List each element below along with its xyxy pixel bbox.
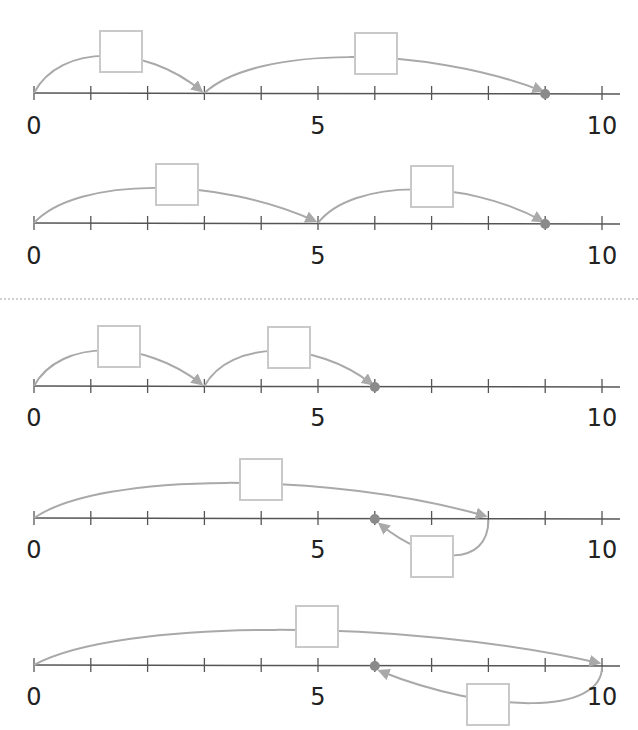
section-divider	[0, 298, 638, 300]
axis-line	[34, 665, 620, 666]
answer-box[interactable]	[295, 605, 339, 648]
tick-label-10: 10	[587, 536, 618, 564]
end-point-dot	[540, 219, 550, 229]
tick-label-10: 10	[587, 404, 618, 432]
axis-line	[34, 93, 620, 94]
tick-label-10: 10	[587, 242, 618, 270]
answer-box[interactable]	[267, 326, 311, 369]
answer-box[interactable]	[155, 163, 199, 206]
end-point-dot	[370, 382, 380, 392]
tick-label-5: 5	[310, 404, 325, 432]
tick-label-10: 10	[587, 683, 618, 711]
end-point-dot	[370, 514, 380, 524]
answer-box[interactable]	[97, 325, 141, 368]
tick-label-0: 0	[26, 404, 41, 432]
tick-label-0: 0	[26, 242, 41, 270]
tick-label-5: 5	[310, 242, 325, 270]
end-point-dot	[370, 661, 380, 671]
tick-label-0: 0	[26, 536, 41, 564]
tick-label-5: 5	[310, 112, 325, 140]
answer-box[interactable]	[99, 30, 143, 73]
axis-line	[34, 518, 620, 519]
number-line-4	[34, 483, 620, 556]
axis-line	[34, 386, 620, 387]
number-line-2	[34, 188, 620, 230]
tick-label-5: 5	[310, 536, 325, 564]
answer-box[interactable]	[354, 32, 398, 75]
tick-label-0: 0	[26, 112, 41, 140]
answer-box[interactable]	[410, 165, 454, 208]
tick-label-5: 5	[310, 683, 325, 711]
tick-label-0: 0	[26, 683, 41, 711]
answer-box[interactable]	[466, 683, 510, 726]
end-point-dot	[540, 89, 550, 99]
answer-box[interactable]	[410, 535, 454, 578]
axis-line	[34, 223, 620, 224]
answer-box[interactable]	[239, 458, 283, 501]
tick-label-10: 10	[587, 112, 618, 140]
